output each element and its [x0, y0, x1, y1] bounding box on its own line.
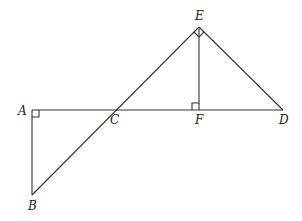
- label-C: C: [110, 113, 119, 127]
- segment-ED: [199, 27, 283, 110]
- label-D: D: [278, 113, 289, 127]
- right-angle-mark-A: [32, 110, 39, 117]
- label-E: E: [194, 9, 204, 23]
- diagram-svg: E A C F D B: [0, 0, 302, 221]
- geometry-diagram: E A C F D B: [0, 0, 302, 221]
- label-A: A: [17, 104, 27, 118]
- right-angle-mark-F: [192, 103, 199, 110]
- label-F: F: [194, 113, 204, 127]
- label-B: B: [27, 199, 37, 213]
- segment-BE: [32, 27, 199, 195]
